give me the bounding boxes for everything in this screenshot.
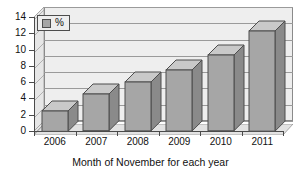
bar[interactable] [42,101,68,131]
bar[interactable] [83,84,109,131]
bar[interactable] [125,72,151,131]
bar[interactable] [249,21,275,131]
y-axis-tick-label: 2 [4,110,26,120]
bar[interactable] [208,45,234,131]
x-axis-category-label: 2008 [115,136,161,147]
legend-label: % [55,18,64,28]
legend-swatch-icon [42,19,51,28]
y-axis-tick-label: 4 [4,93,26,103]
x-axis-category-label: 2011 [239,136,285,147]
legend[interactable]: % [37,15,70,31]
gridline [44,7,293,8]
gridline-connector [34,56,44,74]
x-axis-title: Month of November for each year [0,156,301,168]
bar[interactable] [166,60,192,131]
y-axis-line [34,17,35,131]
y-axis-tick-label: 14 [4,12,26,22]
y-axis-tick-label: 0 [4,126,26,136]
x-axis-category-label: 2007 [73,136,119,147]
y-axis-tick-label: 10 [4,45,26,55]
y-axis-tick-label: 12 [4,28,26,38]
bar-chart: 02468101214 200620072008200920102011 % M… [0,0,301,177]
y-axis-tick-label: 8 [4,61,26,71]
x-axis-category-label: 2010 [198,136,244,147]
x-axis-category-label: 2009 [156,136,202,147]
y-axis-tick-label: 6 [4,77,26,87]
gridline-connector [34,40,44,58]
x-axis-tick [34,131,35,136]
gridline-connector [34,72,44,90]
x-axis-category-label: 2006 [32,136,78,147]
